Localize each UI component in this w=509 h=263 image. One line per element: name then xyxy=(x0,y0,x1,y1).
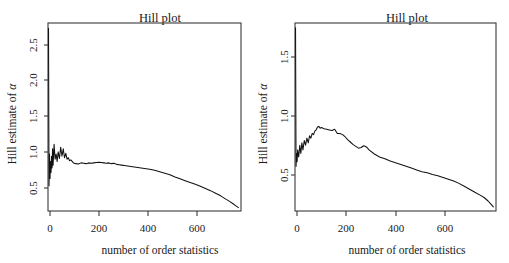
y-tick-label: 2.5 xyxy=(27,38,39,52)
alpha-symbol: α xyxy=(257,83,269,90)
x-tick-labels: 0 200 400 600 xyxy=(47,222,206,234)
x-axis-label: number of order statistics xyxy=(101,244,219,256)
x-axis-label: number of order statistics xyxy=(348,244,466,256)
plot-frame xyxy=(295,23,496,211)
alpha-symbol: α xyxy=(6,83,18,90)
hill-estimate-curve xyxy=(49,28,239,207)
y-axis-label: Hill estimate of α xyxy=(257,83,269,164)
y-tick-labels: 2.5 2.0 1.5 1.0 0.5 xyxy=(27,38,39,195)
x-tick-label: 200 xyxy=(91,222,108,234)
x-tick-label: 400 xyxy=(388,222,405,234)
axis-ticks xyxy=(291,57,445,216)
y-tick-label: 1.0 xyxy=(278,109,290,123)
y-tick-label: 0.5 xyxy=(278,168,290,182)
chart-svg-left: Hill plot Hill estimate of α number of o… xyxy=(0,0,254,263)
plot-frame xyxy=(48,23,241,211)
x-tick-label: 200 xyxy=(338,222,355,234)
x-tick-label: 0 xyxy=(47,222,53,234)
x-tick-label: 600 xyxy=(189,222,206,234)
chart-panel-right: Hill plot Hill estimate of α number of o… xyxy=(255,0,509,263)
y-axis-label: Hill estimate of α xyxy=(6,83,18,164)
y-tick-labels: 1.5 1.0 0.5 xyxy=(278,50,290,182)
y-axis-label-group: Hill estimate of α xyxy=(6,83,18,164)
chart-panel-left: Hill plot Hill estimate of α number of o… xyxy=(0,0,254,263)
x-tick-label: 400 xyxy=(140,222,157,234)
y-tick-label: 1.0 xyxy=(27,145,39,159)
chart-svg-right: Hill plot Hill estimate of α number of o… xyxy=(255,0,509,263)
y-tick-label: 0.5 xyxy=(27,181,39,195)
y-tick-label: 1.5 xyxy=(27,109,39,123)
hill-estimate-curve xyxy=(296,28,494,207)
x-tick-label: 600 xyxy=(437,222,454,234)
y-axis-label-group: Hill estimate of α xyxy=(257,83,269,164)
x-tick-label: 0 xyxy=(294,222,300,234)
y-tick-label: 2.0 xyxy=(27,73,39,87)
y-tick-label: 1.5 xyxy=(278,50,290,64)
hill-plot-figure: Hill plot Hill estimate of α number of o… xyxy=(0,0,509,263)
y-axis-label-text: Hill estimate of xyxy=(257,90,269,164)
y-axis-label-text: Hill estimate of xyxy=(6,90,18,164)
axis-ticks xyxy=(44,45,197,216)
x-tick-labels: 0 200 400 600 xyxy=(294,222,454,234)
